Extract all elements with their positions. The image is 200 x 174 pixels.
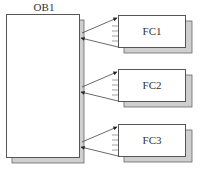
return-arrow-fc1: [81, 38, 118, 47]
return-arrow-fc3: [81, 147, 118, 156]
call-arrow-fc3: [82, 127, 117, 142]
fc2-block: FC2: [81, 70, 192, 108]
fc3-pin-marks: [112, 135, 118, 150]
call-arrow-fc1: [82, 18, 117, 33]
fc1-label: FC1: [143, 25, 162, 37]
fc1-block: FC1: [81, 16, 192, 54]
call-arrow-fc2: [82, 72, 117, 87]
call-structure-diagram: OB1 FC1 FC2: [0, 0, 200, 174]
fc3-label: FC3: [143, 134, 162, 146]
ob1-block: OB1: [7, 1, 85, 163]
ob1-block-body: [7, 15, 80, 158]
fc2-label: FC2: [143, 79, 162, 91]
return-arrow-fc2: [81, 92, 118, 101]
ob1-label: OB1: [34, 1, 55, 13]
fc1-pin-marks: [112, 26, 118, 41]
fc2-pin-marks: [112, 80, 118, 95]
fc3-block: FC3: [81, 125, 192, 163]
